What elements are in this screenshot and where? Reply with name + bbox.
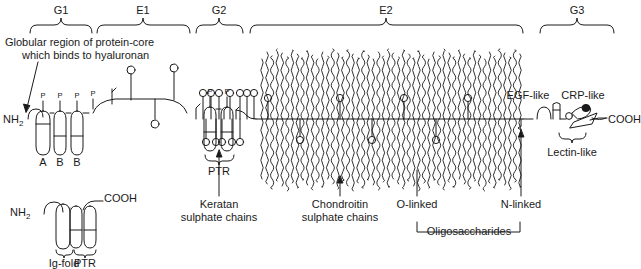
n-terminus-label: NH2 — [3, 113, 23, 130]
chondroitin-chain — [291, 50, 293, 183]
crp-like-label: CRP-like — [561, 89, 604, 101]
chondroitin-chain — [438, 56, 441, 185]
chondroitin-chain — [357, 58, 360, 183]
brace-label-g3: G3 — [570, 4, 585, 16]
egf-like-label: EGF-like — [507, 89, 550, 101]
domain-brace-e1 — [97, 18, 190, 33]
inset-c-terminus-label: COOH — [104, 192, 137, 204]
chondroitin-chain — [413, 58, 415, 186]
lectin-like-label: Lectin-like — [547, 146, 597, 158]
domain-brace-e2 — [250, 18, 523, 33]
g2-loop-2 — [221, 107, 233, 151]
lectin-like-domain — [560, 104, 597, 128]
chondroitin-chain — [296, 54, 299, 188]
chondroitin-chain — [387, 49, 390, 187]
brace-label-e2: E2 — [379, 4, 392, 16]
chondroitin-chain — [346, 50, 349, 186]
chondroitin-chain — [473, 51, 475, 181]
chondroitin-chain — [483, 59, 486, 191]
g1-loop-b1 — [54, 111, 66, 155]
e1-oligosaccharide-top-2 — [127, 66, 135, 100]
keratan-label-line2: sulphate chains — [181, 211, 257, 223]
chondroitin-chain — [433, 52, 436, 180]
p-label-1: P — [40, 91, 45, 100]
chondroitin-chain — [392, 53, 395, 179]
chondroitin-label-line2: sulphate chains — [302, 211, 378, 223]
n-linked-label: N-linked — [501, 198, 541, 210]
chondroitin-chain — [448, 53, 451, 182]
ptr-label-g2: PTR — [208, 165, 230, 177]
chondroitin-chain — [352, 54, 354, 191]
inset-ptr-label: PTR — [74, 257, 96, 269]
chondroitin-chain — [513, 50, 516, 182]
egf-like-domain — [537, 103, 560, 120]
chondroitin-chain — [417, 51, 420, 191]
p-label-5: P — [207, 87, 212, 96]
chondroitin-chain — [337, 53, 339, 189]
inset-loop-ptr-1 — [70, 206, 82, 248]
chondroitin-chain — [286, 57, 289, 191]
chondroitin-chain — [306, 51, 308, 185]
g1-loop-label-b2: B — [73, 156, 80, 168]
p-label-6: P — [224, 87, 229, 96]
p-label-3: P — [74, 91, 79, 100]
domain-brace-g2 — [196, 18, 243, 33]
g1-loop-b2 — [71, 111, 83, 155]
globular-note-arrow — [24, 62, 39, 112]
g1-loop-label-a: A — [39, 156, 46, 168]
brace-label-g1: G1 — [54, 4, 69, 16]
chondroitin-chain — [271, 56, 274, 189]
inset-loop-ptr-2 — [84, 206, 96, 248]
chondroitin-chain — [326, 56, 329, 179]
chondroitin-label-line1: Chondroitin — [312, 198, 368, 210]
e1-oligosaccharide-top-3 — [170, 64, 178, 100]
chondroitin-chain — [453, 57, 456, 187]
chondroitin-chain — [407, 54, 410, 181]
e1-oligosaccharide-bottom — [151, 99, 159, 128]
chondroitin-chain — [316, 59, 319, 182]
globular-note-line2: which binds to hyaluronan — [22, 49, 149, 61]
globular-note-line1: Globular region of protein-core — [5, 36, 154, 48]
chondroitin-chain — [397, 57, 399, 184]
lectin-like-brace — [559, 133, 586, 143]
p-label-2: P — [57, 91, 62, 100]
domain-brace-g1 — [30, 18, 92, 33]
domain-brace-g3 — [540, 18, 614, 33]
chondroitin-chain — [468, 58, 471, 189]
o-linked-label: O-linked — [397, 198, 438, 210]
chondroitin-chain — [498, 49, 501, 180]
brace-label-g2: G2 — [212, 4, 227, 16]
chondroitin-chain — [509, 57, 512, 190]
chondroitin-chain — [367, 55, 369, 180]
g1-loop-a — [36, 111, 50, 155]
chondroitin-chain — [478, 55, 481, 186]
c-terminus-label: COOH — [608, 113, 641, 125]
chondroitin-chain — [493, 56, 496, 188]
chondroitin-chain — [458, 50, 460, 179]
p-label-4: P — [90, 89, 95, 98]
chondroitin-chain — [377, 52, 380, 190]
chondroitin-chain — [311, 55, 314, 190]
chondroitin-chain — [276, 49, 278, 181]
brace-label-e1: E1 — [136, 4, 149, 16]
e1-oligosaccharide-top-1 — [112, 88, 116, 104]
keratan-label-line1: Keratan — [200, 198, 239, 210]
chondroitin-chain — [428, 59, 430, 188]
oligosaccharides-label: Oligosaccharides — [427, 225, 511, 237]
g1-loop-label-b1: B — [56, 156, 63, 168]
chondroitin-chain — [331, 49, 334, 184]
inset-n-terminus-label: NH2 — [10, 206, 30, 223]
chondroitin-chain — [488, 52, 490, 183]
